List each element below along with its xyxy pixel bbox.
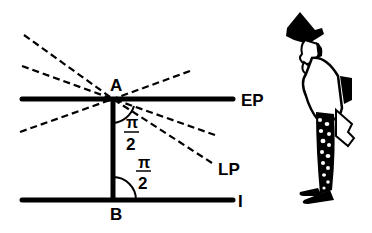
lp-label: LP (218, 160, 240, 179)
angle-b-numerator: π (138, 154, 150, 171)
angle-label-a: π 2 (124, 114, 139, 154)
angle-label-b: π 2 (136, 154, 151, 193)
ep-label: EP (241, 91, 264, 110)
thinking-man-illustration (286, 12, 354, 204)
point-a-label: A (110, 76, 122, 95)
angle-a-denominator: 2 (126, 135, 135, 154)
angle-a-numerator: π (126, 114, 138, 131)
angle-arc-b (113, 177, 136, 200)
angle-b-denominator: 2 (138, 174, 147, 193)
diagram-canvas: A B EP LP I π 2 π 2 (0, 0, 372, 233)
point-b-label: B (110, 205, 122, 224)
i-label: I (238, 192, 243, 211)
